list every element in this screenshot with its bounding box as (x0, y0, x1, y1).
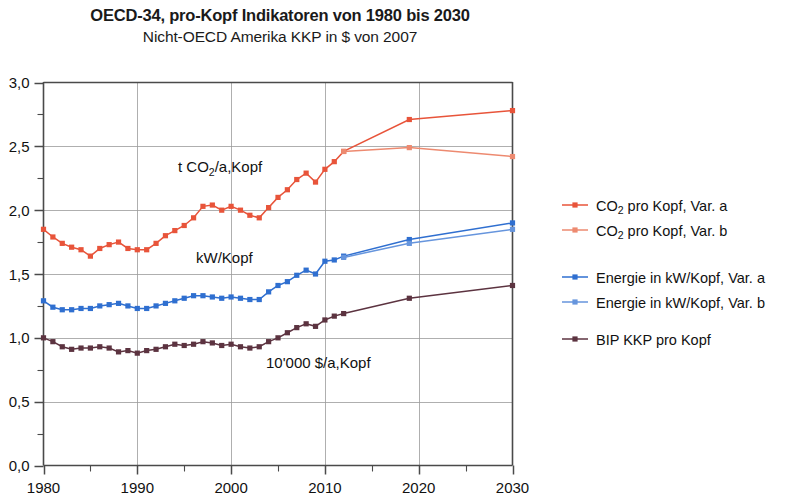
data-point-marker (69, 347, 74, 352)
x-tick-labels: 198019902000201020202030 (27, 479, 529, 496)
data-point-marker (219, 343, 224, 348)
data-point-marker (60, 307, 65, 312)
data-point-marker (304, 171, 309, 176)
series-line (44, 285, 513, 353)
x-tick-label: 2000 (214, 479, 247, 496)
series-co2-pro-kopf-var-b (341, 145, 515, 159)
data-point-marker (69, 307, 74, 312)
data-point-marker (266, 289, 271, 294)
legend-item-co2_a[interactable]: CO2 pro Kopf, Var. a (562, 198, 728, 217)
data-point-marker (69, 245, 74, 250)
y-tick-label: 0,0 (9, 457, 30, 474)
y-tick-label: 1,5 (9, 266, 30, 283)
data-point-marker (238, 296, 243, 301)
data-point-marker (407, 296, 412, 301)
data-point-marker (238, 344, 243, 349)
legend-swatch-marker (572, 336, 577, 341)
data-point-marker (247, 345, 252, 350)
x-tick-label: 2010 (308, 479, 341, 496)
data-point-marker (163, 344, 168, 349)
data-point-marker (407, 145, 412, 150)
data-point-marker (172, 342, 177, 347)
data-point-marker (275, 283, 280, 288)
data-point-marker (313, 271, 318, 276)
x-tick-label: 1990 (121, 479, 154, 496)
data-point-marker (144, 348, 149, 353)
legend-swatch-marker (572, 227, 577, 232)
data-point-marker (304, 321, 309, 326)
data-point-marker (135, 351, 140, 356)
data-point-marker (266, 205, 271, 210)
data-point-marker (313, 324, 318, 329)
data-point-marker (97, 303, 102, 308)
data-point-marker (285, 279, 290, 284)
data-point-marker (172, 228, 177, 233)
annotation-co2: t CO2/a,Kopf (178, 158, 263, 178)
data-point-marker (341, 311, 346, 316)
data-point-marker (247, 297, 252, 302)
data-point-marker (210, 294, 215, 299)
data-point-marker (219, 208, 224, 213)
data-point-marker (294, 177, 299, 182)
legend-item-gdp[interactable]: BIP KKP pro Kopf (562, 332, 712, 348)
legend-label: CO2 pro Kopf, Var. b (596, 223, 727, 242)
series-energie-in-kw-kopf-var-a (41, 220, 515, 312)
axis-lines (44, 82, 513, 466)
data-point-marker (125, 246, 130, 251)
data-point-marker (191, 215, 196, 220)
y-tick-labels: 0,00,51,01,52,02,53,0 (9, 74, 30, 474)
data-point-marker (163, 233, 168, 238)
data-point-marker (341, 255, 346, 260)
data-point-marker (229, 294, 234, 299)
legend-swatch-marker (572, 274, 577, 279)
data-point-marker (341, 149, 346, 154)
y-tick-label: 0,5 (9, 393, 30, 410)
data-point-marker (172, 298, 177, 303)
data-point-marker (285, 330, 290, 335)
line-chart-plot: 0,00,51,01,52,02,53,0 198019902000201020… (0, 0, 806, 499)
data-point-marker (229, 204, 234, 209)
data-point-marker (144, 306, 149, 311)
chart-root: OECD-34, pro-Kopf Indikatoren von 1980 b… (0, 0, 806, 499)
data-point-marker (200, 293, 205, 298)
data-point-marker (60, 344, 65, 349)
data-point-marker (332, 159, 337, 164)
data-point-marker (182, 343, 187, 348)
data-point-marker (116, 239, 121, 244)
series-line (44, 223, 513, 310)
data-point-marker (257, 215, 262, 220)
data-point-marker (322, 167, 327, 172)
data-point-marker (78, 345, 83, 350)
series-line (344, 229, 513, 257)
series-energie-in-kw-kopf-var-b (341, 227, 515, 260)
data-point-marker (257, 297, 262, 302)
data-point-marker (78, 247, 83, 252)
data-point-marker (332, 314, 337, 319)
axis-ticks (35, 84, 514, 475)
data-point-marker (238, 208, 243, 213)
series-layer (41, 108, 515, 356)
data-point-marker (97, 246, 102, 251)
data-point-marker (41, 298, 46, 303)
data-point-marker (294, 273, 299, 278)
data-point-marker (191, 342, 196, 347)
data-point-marker (229, 342, 234, 347)
y-tick-label: 3,0 (9, 74, 30, 91)
data-point-marker (125, 303, 130, 308)
legend-item-energy_a[interactable]: Energie in kW/Kopf, Var. a (562, 270, 766, 286)
data-point-marker (125, 348, 130, 353)
legend-label: BIP KKP pro Kopf (596, 332, 712, 348)
data-point-marker (313, 179, 318, 184)
legend-item-co2_b[interactable]: CO2 pro Kopf, Var. b (562, 223, 727, 242)
data-point-marker (510, 220, 515, 225)
y-tick-label: 2,0 (9, 202, 30, 219)
data-point-marker (78, 306, 83, 311)
data-point-marker (97, 344, 102, 349)
x-tick-label: 2020 (402, 479, 435, 496)
legend-label: CO2 pro Kopf, Var. a (596, 198, 728, 217)
data-point-marker (200, 204, 205, 209)
data-point-marker (135, 306, 140, 311)
series-line (344, 148, 513, 157)
data-point-marker (153, 303, 158, 308)
legend-item-energy_b[interactable]: Energie in kW/Kopf, Var. b (562, 295, 765, 311)
